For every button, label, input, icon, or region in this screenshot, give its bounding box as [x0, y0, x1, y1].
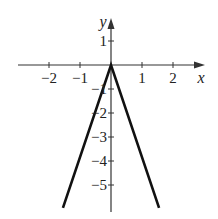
y-tick-label: −5: [91, 177, 107, 193]
x-tick-label: −1: [72, 70, 88, 86]
x-tick-label: −2: [41, 70, 57, 86]
x-axis-label: x: [196, 69, 204, 86]
x-tick-label: 1: [138, 70, 146, 86]
y-tick-label: 1: [100, 33, 108, 49]
y-tick-label: −3: [91, 129, 107, 145]
y-tick-label: −4: [91, 153, 107, 169]
x-axis-arrow-icon: [194, 62, 205, 69]
y-tick-label: −2: [91, 105, 107, 121]
y-axis-label: y: [97, 13, 107, 31]
y-tick-label: −1: [91, 81, 107, 97]
y-axis-arrow-icon: [108, 18, 115, 29]
axes: [18, 18, 205, 212]
x-tick-label: 2: [169, 70, 177, 86]
chart: −2−1121−1−2−3−4−5xy: [0, 0, 218, 219]
